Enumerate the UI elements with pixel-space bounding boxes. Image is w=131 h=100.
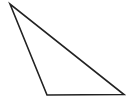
triangle-shape [10,4,124,95]
diagram-canvas [0,0,131,100]
